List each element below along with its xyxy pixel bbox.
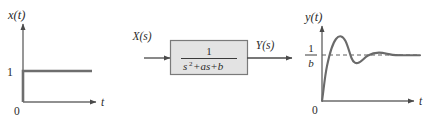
- output-plot: y(t) t 1 b 0: [303, 10, 423, 116]
- step-response-curve: [322, 36, 420, 101]
- input-step-signal: [23, 71, 92, 102]
- figure-canvas: x(t) t 1 0 X(s) 1 s 2 +as+b: [0, 0, 432, 122]
- input-plot-origin-label: 0: [14, 105, 20, 117]
- output-plot-origin-label: 0: [312, 104, 318, 116]
- block-diagram-svg: x(t) t 1 0 X(s) 1 s 2 +as+b: [0, 0, 432, 122]
- block-output-label: Y(s): [256, 39, 275, 52]
- input-plot-x-axis-label: t: [101, 96, 105, 108]
- transfer-function-group: X(s) 1 s 2 +as+b Y(s): [131, 30, 292, 75]
- denominator-remainder: +as+b: [193, 60, 224, 72]
- block-input-label: X(s): [131, 30, 151, 43]
- input-plot-y-tick-label: 1: [7, 65, 13, 79]
- denominator-base: s: [183, 60, 187, 72]
- output-plot-y-axis-label: y(t): [303, 10, 322, 24]
- input-plot: x(t) t 1 0: [7, 8, 105, 117]
- output-plot-x-axis-label: t: [419, 95, 423, 107]
- y-tick-denominator: b: [308, 57, 314, 69]
- input-plot-y-axis-label: x(t): [7, 8, 25, 22]
- output-plot-y-tick-label: 1 b: [305, 42, 317, 69]
- y-tick-numerator: 1: [308, 42, 314, 54]
- transfer-function-numerator: 1: [206, 45, 212, 57]
